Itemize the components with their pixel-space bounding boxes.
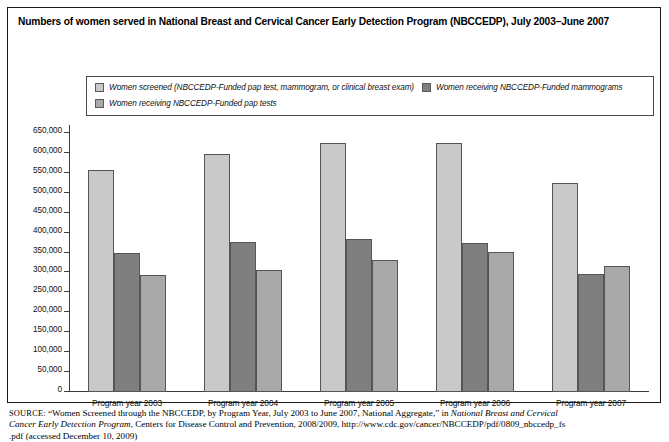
y-tick-label: 450,000 bbox=[33, 206, 62, 215]
x-axis-label-0: Program year 2003 bbox=[69, 398, 185, 408]
source-line2-b: , Centers for Disease Control and Preven… bbox=[131, 419, 566, 429]
y-tick-label: 300,000 bbox=[33, 265, 62, 274]
page-title: Numbers of women served in National Brea… bbox=[18, 16, 652, 28]
legend-swatch-pap-tests bbox=[95, 99, 104, 108]
bar-2-0 bbox=[320, 143, 346, 392]
bar-1-1 bbox=[230, 242, 256, 392]
y-tick-label: 350,000 bbox=[33, 246, 62, 255]
y-tick-label: 500,000 bbox=[33, 186, 62, 195]
bar-4-0 bbox=[552, 183, 578, 392]
source-line3-clipped: .pdf (accessed December 10, 2009) bbox=[9, 431, 659, 442]
y-tick-label: 250,000 bbox=[33, 285, 62, 294]
bar-4-1 bbox=[578, 274, 604, 392]
y-tick-mark bbox=[64, 371, 69, 372]
y-tick-mark bbox=[64, 152, 69, 153]
bar-2-2 bbox=[372, 260, 398, 392]
y-tick-mark bbox=[64, 132, 69, 133]
chart-plot-area: 050,000100,000150,000200,000250,000300,0… bbox=[69, 125, 649, 393]
bar-1-0 bbox=[204, 154, 230, 392]
y-tick-mark bbox=[64, 391, 69, 392]
y-tick-mark bbox=[64, 311, 69, 312]
y-tick-label: 200,000 bbox=[33, 305, 62, 314]
x-axis-label-2: Program year 2005 bbox=[301, 398, 417, 408]
source-line1-italic: National Breast and Cervical bbox=[451, 408, 558, 418]
bar-0-2 bbox=[140, 275, 166, 392]
y-tick-mark bbox=[64, 172, 69, 173]
legend-swatch-mammograms bbox=[422, 83, 431, 92]
y-tick-label: 650,000 bbox=[33, 126, 62, 135]
y-tick-mark bbox=[64, 192, 69, 193]
y-tick-mark bbox=[64, 232, 69, 233]
bar-3-1 bbox=[462, 243, 488, 392]
source-line1-a: “Women Screened through the NBCCEDP, by … bbox=[48, 408, 451, 418]
y-tick-label: 600,000 bbox=[33, 146, 62, 155]
chart-canvas: 050,000100,000150,000200,000250,000300,0… bbox=[69, 125, 649, 393]
legend-item-mammograms: Women receiving NBCCEDP-Funded mammogram… bbox=[422, 83, 623, 92]
y-tick-mark bbox=[64, 212, 69, 213]
source-note: SOURCE: “Women Screened through the NBCC… bbox=[9, 408, 659, 442]
bar-0-0 bbox=[88, 170, 114, 392]
bar-1-2 bbox=[256, 270, 282, 392]
y-tick-label: 400,000 bbox=[33, 226, 62, 235]
legend-item-pap-tests: Women receiving NBCCEDP-Funded pap tests bbox=[95, 99, 277, 108]
bar-2-1 bbox=[346, 239, 372, 392]
y-tick-label: 100,000 bbox=[33, 345, 62, 354]
y-tick-label: 50,000 bbox=[38, 365, 62, 374]
y-tick-mark bbox=[64, 331, 69, 332]
source-line2-italic: Cancer Early Detection Program bbox=[9, 419, 131, 429]
y-tick-mark bbox=[64, 351, 69, 352]
legend-label-screened: Women screened (NBCCEDP-Funded pap test,… bbox=[109, 83, 414, 92]
legend-swatch-screened bbox=[95, 83, 104, 92]
legend-label-mammograms: Women receiving NBCCEDP-Funded mammogram… bbox=[436, 83, 623, 92]
y-tick-label: 150,000 bbox=[33, 325, 62, 334]
x-axis-label-3: Program year 2006 bbox=[417, 398, 533, 408]
legend-item-screened: Women screened (NBCCEDP-Funded pap test,… bbox=[95, 83, 414, 92]
x-axis-label-1: Program year 2004 bbox=[185, 398, 301, 408]
y-tick-mark bbox=[64, 291, 69, 292]
bar-3-2 bbox=[488, 252, 514, 392]
y-tick-label: 0 bbox=[58, 385, 62, 394]
y-tick-mark bbox=[64, 252, 69, 253]
legend-label-pap-tests: Women receiving NBCCEDP-Funded pap tests bbox=[109, 99, 277, 108]
y-axis-line bbox=[69, 125, 70, 392]
chart-legend: Women screened (NBCCEDP-Funded pap test,… bbox=[86, 76, 654, 116]
bar-3-0 bbox=[436, 143, 462, 392]
y-tick-label: 550,000 bbox=[33, 166, 62, 175]
source-line3: .pdf (accessed December 10, 2009) bbox=[9, 431, 137, 441]
source-label: SOURCE: bbox=[9, 409, 46, 418]
bar-4-2 bbox=[604, 266, 630, 392]
x-axis-label-4: Program year 2007 bbox=[533, 398, 649, 408]
figure-frame: Numbers of women served in National Brea… bbox=[7, 7, 661, 403]
bar-0-1 bbox=[114, 253, 140, 392]
y-tick-mark bbox=[64, 271, 69, 272]
